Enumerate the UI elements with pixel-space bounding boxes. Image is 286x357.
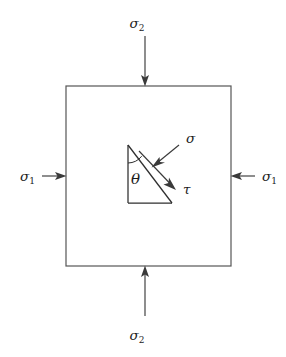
stress-element-figure: σ2 σ2 σ1 σ1 σ τ θ bbox=[0, 0, 286, 357]
sigma1-right-label: σ1 bbox=[262, 168, 277, 186]
stress-square bbox=[66, 86, 231, 266]
sigma2-top-arrow bbox=[141, 36, 149, 87]
angle-theta-label: θ bbox=[131, 170, 140, 188]
sigma1-left-arrow bbox=[42, 172, 67, 180]
shear-stress-label: τ bbox=[183, 181, 191, 197]
sigma2-bottom-subscript: 2 bbox=[139, 335, 145, 345]
normal-stress-label: σ bbox=[186, 130, 196, 146]
diagram-canvas: σ2 σ2 σ1 σ1 σ τ θ bbox=[0, 0, 286, 357]
sigma1-left-subscript: 1 bbox=[29, 176, 35, 186]
sigma1-right-arrow bbox=[231, 172, 256, 180]
sigma2-top-label: σ2 bbox=[130, 15, 145, 33]
sigma1-right-subscript: 1 bbox=[271, 176, 277, 186]
sigma2-top-subscript: 2 bbox=[139, 23, 145, 33]
sigma1-left-label: σ1 bbox=[20, 168, 35, 186]
sigma2-bottom-arrow bbox=[141, 266, 149, 317]
sigma-normal-arrow bbox=[152, 145, 180, 168]
sigma2-bottom-label: σ2 bbox=[130, 327, 145, 345]
